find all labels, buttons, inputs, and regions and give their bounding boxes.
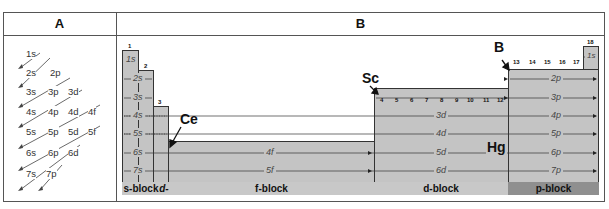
p-row-label: 6p [549, 147, 563, 157]
d-row-label: 3d [434, 110, 448, 120]
f-row-label: 4f [264, 147, 276, 157]
d-row-label: 4d [434, 128, 448, 138]
p-row-label: 2p [549, 73, 563, 83]
d-row-label: 6d [434, 165, 448, 175]
orbital-arrows-icon [0, 0, 609, 209]
s-row-label: 6s [131, 147, 145, 157]
s-row-label: 5s [131, 128, 145, 138]
f-row-label: 5f [264, 165, 276, 175]
s-block-label: s-block [122, 182, 160, 195]
p-row-label: 4p [549, 110, 563, 120]
f-block-label: f-block [168, 182, 375, 195]
element-hg: Hg [486, 139, 507, 155]
helium-orbital-label: 1s [585, 51, 597, 60]
p-row-label: 3p [549, 92, 563, 102]
p-row-label: 7p [549, 165, 563, 175]
element-sc: Sc [362, 70, 379, 86]
s-row-label: 2s [131, 73, 145, 83]
element-ce: Ce [180, 111, 198, 127]
s-row-label: 4s [131, 110, 145, 120]
s-row-label: 3s [131, 92, 145, 102]
element-b: B [494, 39, 504, 55]
p-block-label: p-block [508, 182, 599, 195]
s-row-label: 7s [131, 165, 145, 175]
s-row-label: 1s [124, 54, 138, 64]
d-block-label: d-block [374, 182, 508, 195]
p-row-label: 5p [549, 128, 563, 138]
d-row-label: 5d [434, 147, 448, 157]
